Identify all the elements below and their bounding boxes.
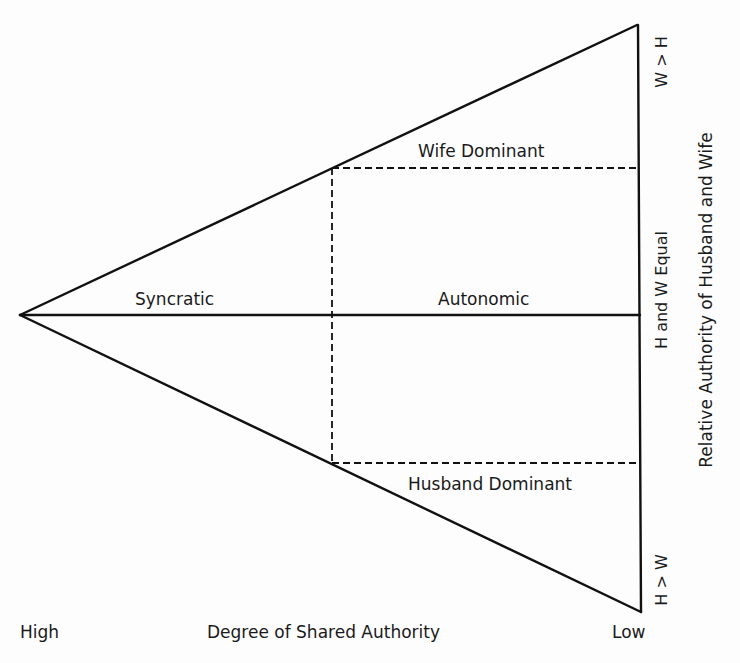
upper-edge xyxy=(20,25,637,315)
y-axis-title: Relative Authority of Husband and Wife xyxy=(696,132,716,467)
right-edge xyxy=(638,25,641,612)
y-axis-top-label: W > H xyxy=(652,36,671,87)
x-axis-high-label: High xyxy=(20,622,59,642)
region-wife-dominant-label: Wife Dominant xyxy=(418,141,545,161)
region-syncratic-label: Syncratic xyxy=(135,289,214,309)
y-axis-middle-label: H and W Equal xyxy=(652,231,671,349)
x-axis-title: Degree of Shared Authority xyxy=(207,622,440,642)
authority-typology-diagram: Syncratic Autonomic Wife Dominant Husban… xyxy=(0,0,740,663)
x-axis-low-label: Low xyxy=(612,622,646,642)
region-husband-dominant-label: Husband Dominant xyxy=(408,474,572,494)
triangle-outline xyxy=(20,25,641,612)
region-autonomic-label: Autonomic xyxy=(438,289,529,309)
y-axis-bottom-label: H > W xyxy=(652,554,671,606)
